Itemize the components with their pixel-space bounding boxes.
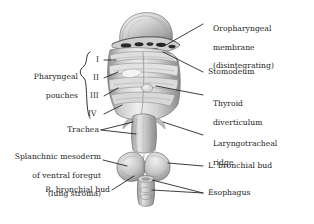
label-l-bronchial-bud: L. bronchial bud — [208, 161, 272, 170]
label-laryngotracheal-ridge-line1: Laryngotracheal — [213, 139, 277, 148]
label-oropharyngeal-membrane: Oropharyngeal membrane (disintegrating) — [208, 15, 274, 70]
leader-trachea — [101, 122, 133, 130]
illustration-embryonic-pharynx — [108, 13, 181, 207]
label-oropharyngeal-membrane-line2: membrane — [213, 43, 255, 52]
leader-esophagus-secondary — [152, 190, 203, 193]
label-pouch-numeral-i: I — [96, 55, 99, 64]
leader-laryngotracheal-ridge — [163, 122, 203, 135]
label-esophagus: Esophagus — [208, 188, 250, 197]
label-thyroid-diverticulum-line2: diverticulum — [213, 118, 262, 127]
label-pouch-numeral-iv: IV — [88, 109, 96, 118]
label-r-bronchial-bud: R. bronchial bud — [0, 185, 110, 194]
leader-esophagus — [152, 180, 203, 193]
pharyngeal-pouch-block — [108, 48, 181, 121]
label-pharyngeal-pouches-line2: pouches — [46, 91, 78, 100]
label-thyroid-diverticulum: Thyroid diverticulum — [208, 90, 262, 127]
label-stomodeum: Stomodeum — [208, 67, 255, 76]
leader-trachea-secondary — [101, 130, 136, 134]
label-splanchnic-mesoderm-line1: Splanchnic mesoderm — [15, 152, 101, 161]
label-thyroid-diverticulum-line1: Thyroid — [213, 99, 243, 108]
label-pharyngeal-pouches: Pharyngeal pouches — [0, 63, 78, 100]
label-pouch-numeral-ii: II — [93, 73, 99, 82]
label-pharyngeal-pouches-line1: Pharyngeal — [34, 72, 78, 81]
label-trachea: Trachea — [0, 125, 99, 134]
label-splanchnic-mesoderm-line2: of ventral foregut — [32, 171, 101, 180]
label-oropharyngeal-membrane-line1: Oropharyngeal — [213, 24, 271, 33]
leader-l-bronchial-bud — [168, 163, 203, 166]
label-pouch-numeral-iii: III — [90, 91, 99, 100]
